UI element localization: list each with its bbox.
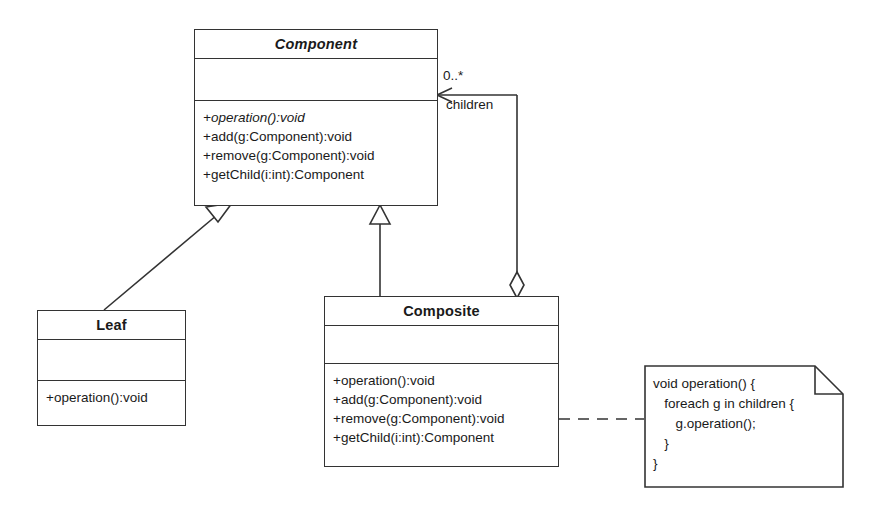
attributes-compartment-leaf bbox=[38, 340, 185, 381]
attributes-compartment-component bbox=[195, 59, 437, 101]
methods-compartment-composite: +operation():void +add(g:Component):void… bbox=[325, 364, 558, 465]
method-item: +operation():void bbox=[203, 108, 437, 127]
method-item: +remove(g:Component):void bbox=[203, 146, 437, 165]
note-line: g.operation(); bbox=[653, 414, 844, 434]
attributes-compartment-composite bbox=[325, 326, 558, 364]
method-item: +operation():void bbox=[333, 371, 558, 390]
class-box-leaf[interactable]: Leaf +operation():void bbox=[37, 310, 186, 426]
association-multiplicity-label: 0..* bbox=[443, 68, 463, 83]
methods-compartment-component: +operation():void +add(g:Component):void… bbox=[195, 101, 437, 204]
class-name-leaf: Leaf bbox=[38, 311, 185, 340]
note-line: } bbox=[653, 434, 844, 454]
method-item: +getChild(i:int):Component bbox=[203, 165, 437, 184]
method-item: +getChild(i:int):Component bbox=[333, 428, 558, 447]
note-box-operation-pseudocode[interactable]: void operation() { foreach g in children… bbox=[644, 365, 844, 488]
method-item: +remove(g:Component):void bbox=[333, 409, 558, 428]
note-line: foreach g in children { bbox=[653, 394, 844, 414]
generalization-composite-to-component bbox=[370, 205, 390, 296]
note-text-content: void operation() { foreach g in children… bbox=[644, 365, 844, 488]
class-name-composite: Composite bbox=[325, 297, 558, 326]
method-item: +add(g:Component):void bbox=[203, 127, 437, 146]
aggregation-composite-to-component bbox=[437, 88, 524, 298]
method-item: +operation():void bbox=[46, 388, 185, 407]
note-line: void operation() { bbox=[653, 374, 844, 394]
generalization-leaf-to-component bbox=[104, 203, 232, 310]
methods-compartment-leaf: +operation():void bbox=[38, 381, 185, 424]
class-name-component: Component bbox=[195, 30, 437, 59]
method-item: +add(g:Component):void bbox=[333, 390, 558, 409]
note-line: } bbox=[653, 454, 844, 474]
class-box-component[interactable]: Component +operation():void +add(g:Compo… bbox=[194, 29, 438, 206]
class-box-composite[interactable]: Composite +operation():void +add(g:Compo… bbox=[324, 296, 559, 467]
association-role-name-label: children bbox=[446, 97, 493, 112]
